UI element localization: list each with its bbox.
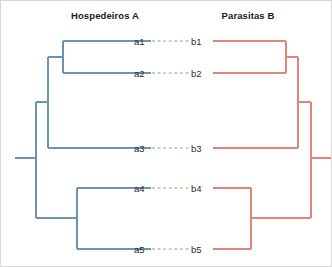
tip-label-b3: b3	[191, 143, 202, 154]
tip-label-b1: b1	[191, 36, 202, 47]
tip-label-b2: b2	[191, 68, 202, 79]
tip-label-a2: a2	[134, 68, 145, 79]
host-parasite-links	[152, 41, 189, 249]
tip-label-b5: b5	[191, 244, 202, 255]
tip-label-a1: a1	[134, 36, 145, 47]
tip-label-a4: a4	[134, 183, 145, 194]
tip-label-a5: a5	[134, 244, 145, 255]
tanglegram-figure: Hospedeiros A Parasitas B	[0, 0, 332, 267]
tanglegram-canvas	[1, 1, 332, 267]
parasite-tree	[213, 41, 332, 249]
host-tree	[15, 41, 151, 249]
tip-label-b4: b4	[191, 183, 202, 194]
tip-label-a3: a3	[134, 143, 145, 154]
